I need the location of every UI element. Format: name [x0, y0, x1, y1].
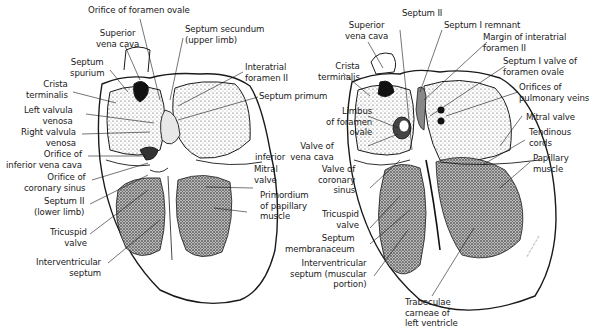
label-tricuspid-valve-right: Tricuspid valve [322, 209, 359, 230]
label-septum-primum: Septum primum [259, 91, 327, 102]
label-mitral-valve-left: Mitral valve [254, 164, 278, 185]
label-septum-ii-lower-limb: Septum II (lower limb) [34, 196, 84, 217]
label-septum-i-remnant: Septum I remnant [444, 20, 520, 31]
label-orifice-foramen-ovale: Orifice of foramen ovale [88, 5, 190, 16]
label-orifice-inferior-vena-cava: Orifice of inferior vena cava [6, 149, 82, 170]
label-septum-spurium: Septum spurium [70, 57, 104, 78]
label-septum-ii: Septum II [402, 8, 442, 19]
heart-septation-figure: ~~~~~~ [0, 0, 595, 334]
label-right-valvula-venosa: Right valvula venosa [21, 127, 76, 148]
label-valve-coronary-sinus: Valve of coronary sinus [318, 164, 355, 196]
label-trabeculae-carneae: Trabeculae carneae of left ventricle [405, 297, 458, 329]
label-interatrial-foramen-ii: Interatrial foramen II [245, 62, 288, 83]
label-septum-membranaceum: Septum membranaceum [285, 233, 355, 254]
label-primordium-papillary-muscle: Primordium of papillary muscle [260, 190, 309, 222]
label-interventricular-septum-muscular: Interventricular septum (muscular portio… [290, 258, 367, 290]
label-orifice-coronary-sinus: Orifice of coronary sinus [24, 172, 85, 193]
label-limbus-foramen-ovale: Limbus of foramen ovale [326, 106, 372, 138]
label-margin-interatrial-foramen-ii: Margin of interatrial foramen II [483, 32, 566, 53]
label-orifices-pulmonary-veins: Orifices of pulmonary veins [519, 82, 589, 103]
label-septum-i-valve-foramen-ovale: Septum I valve of foramen ovale [503, 56, 577, 77]
label-tricuspid-valve-left: Tricuspid valve [50, 227, 87, 248]
label-crista-terminalis-left: Crista terminalis [26, 79, 68, 100]
left-heart-drawing [98, 47, 277, 303]
label-interventricular-septum: Interventricular septum [36, 257, 101, 278]
label-left-valvula-venosa: Left valvula venosa [24, 105, 73, 126]
label-tendinous-cords: Tendinous cords [529, 127, 571, 148]
label-valve-inferior-vena-cava: Valve of inferior vena cava [255, 141, 334, 162]
label-superior-vena-cava-left: Superior vena cava [96, 28, 139, 49]
label-crista-terminalis-right: Crista terminalis [318, 61, 360, 82]
label-papillary-muscle: Papillary muscle [533, 153, 569, 174]
label-mitral-valve-right: Mitral valve [526, 112, 575, 123]
label-superior-vena-cava-right: Superior vena cava [345, 20, 388, 41]
label-septum-secundum-upper-limb: Septum secundum (upper limb) [185, 24, 264, 45]
